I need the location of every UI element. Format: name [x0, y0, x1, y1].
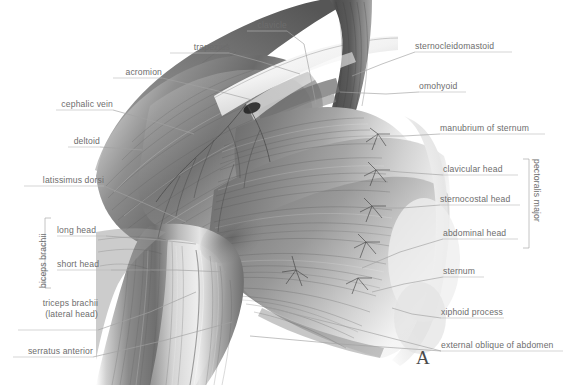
bracket-label-pectoralis-major: pectoralis major — [532, 159, 542, 222]
label-manubrium-of-sternum: manubrium of sternum — [440, 123, 529, 133]
bracket-label-biceps-brachii: biceps brachii — [38, 233, 48, 288]
label-clavicular-head: clavicular head — [443, 164, 503, 174]
label-trapezius: trapezius — [100, 42, 230, 52]
label-clavicle: clavicle — [207, 20, 287, 30]
label-xiphoid-process: xiphoid process — [441, 307, 503, 317]
label-sternocostal-head: sternocostal head — [440, 194, 510, 204]
anatomy-figure: trapezius acromion cephalic vein deltoid… — [0, 0, 574, 385]
label-sternum: sternum — [443, 266, 475, 276]
leader-line-overlay — [0, 0, 574, 385]
label-triceps-brachii: triceps brachii (lateral head) — [8, 298, 98, 319]
label-sternocleidomastoid: sternocleidomastoid — [415, 41, 494, 51]
label-deltoid: deltoid — [20, 136, 100, 146]
label-acromion: acromion — [40, 67, 162, 77]
label-latissimus-dorsi: latissimus dorsi — [10, 175, 104, 185]
label-abdominal-head: abdominal head — [443, 228, 506, 238]
label-omohyoid: omohyoid — [419, 81, 457, 91]
label-triceps-line1: triceps brachii — [8, 298, 98, 309]
label-external-oblique: external oblique of abdomen — [441, 340, 554, 350]
label-short-head: short head — [57, 259, 99, 269]
label-serratus-anterior: serratus anterior — [5, 346, 93, 356]
figure-panel-letter: A — [416, 347, 430, 369]
label-triceps-line2: (lateral head) — [8, 309, 98, 320]
label-long-head: long head — [57, 225, 96, 235]
label-cephalic-vein: cephalic vein — [13, 99, 113, 109]
